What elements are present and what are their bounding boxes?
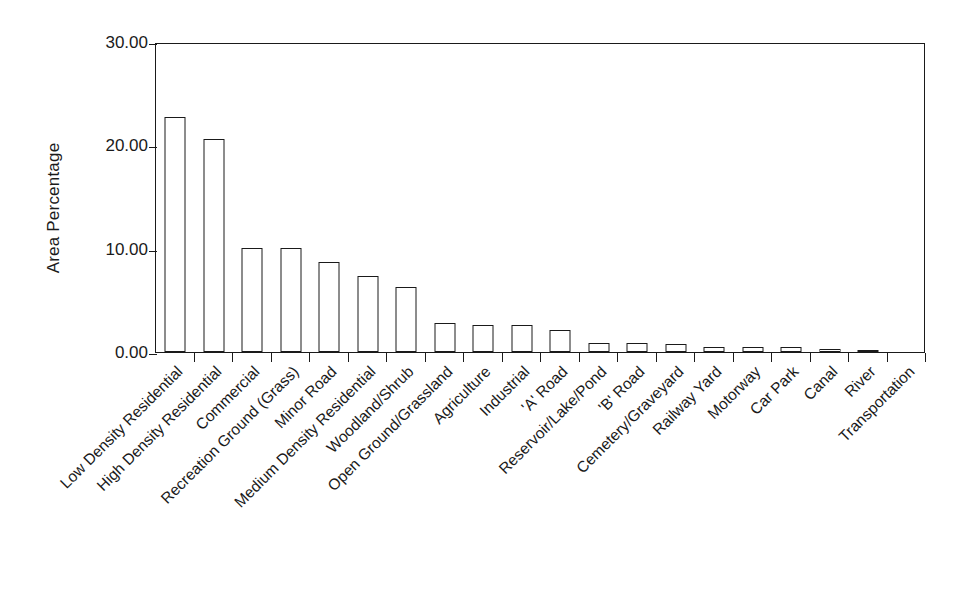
x-axis-tick-mark xyxy=(271,353,272,362)
y-axis-tick-mark xyxy=(149,147,157,148)
bar[interactable] xyxy=(665,344,686,352)
bar[interactable] xyxy=(242,248,263,352)
x-axis-tick-mark xyxy=(386,353,387,362)
bar-slot xyxy=(772,44,811,352)
bar-slot xyxy=(233,44,272,352)
bar-slot xyxy=(657,44,696,352)
bar-slot xyxy=(695,44,734,352)
bar[interactable] xyxy=(473,325,494,352)
bar-slot xyxy=(195,44,234,352)
bar[interactable] xyxy=(704,347,725,352)
x-axis-tick-mark xyxy=(463,353,464,362)
x-axis-tick-label: Canal xyxy=(800,363,840,403)
bar-slot xyxy=(349,44,388,352)
bar-slot xyxy=(541,44,580,352)
bar-slot xyxy=(310,44,349,352)
x-axis-tick-mark xyxy=(579,353,580,362)
bar-series xyxy=(156,44,924,352)
y-axis-tick-mark xyxy=(149,44,157,45)
x-axis-tick-mark xyxy=(309,353,310,362)
y-axis-tick-label: 10.00 xyxy=(76,241,148,258)
bar-slot xyxy=(734,44,773,352)
y-axis-tick-label: 0.00 xyxy=(76,344,148,361)
plot-area xyxy=(155,43,925,353)
bar[interactable] xyxy=(511,325,532,352)
bar-slot xyxy=(464,44,503,352)
bar[interactable] xyxy=(858,350,879,352)
y-axis-title: Area Percentage xyxy=(44,108,64,308)
bar[interactable] xyxy=(434,323,455,352)
bar[interactable] xyxy=(165,117,186,352)
x-axis-tick-mark xyxy=(887,353,888,362)
x-axis-tick-mark xyxy=(925,353,926,362)
bar-slot xyxy=(503,44,542,352)
bar[interactable] xyxy=(819,349,840,352)
bar[interactable] xyxy=(319,262,340,352)
x-axis-tick-mark xyxy=(694,353,695,362)
bar[interactable] xyxy=(742,347,763,352)
bar-slot xyxy=(272,44,311,352)
bar[interactable] xyxy=(280,248,301,352)
bar-slot xyxy=(426,44,465,352)
bar[interactable] xyxy=(781,347,802,352)
bar-slot xyxy=(618,44,657,352)
x-axis-tick-mark xyxy=(425,353,426,362)
y-axis-tick-mark xyxy=(149,251,157,252)
bar[interactable] xyxy=(550,330,571,352)
y-axis-tick-labels: 0.0010.0020.0030.00 xyxy=(74,0,148,600)
bar-slot xyxy=(888,44,927,352)
bar[interactable] xyxy=(396,287,417,352)
y-axis-tick-label: 20.00 xyxy=(76,137,148,154)
bar-slot xyxy=(811,44,850,352)
y-axis-tick-mark xyxy=(149,354,157,355)
bar[interactable] xyxy=(627,343,648,352)
x-axis-tick-mark xyxy=(810,353,811,362)
x-axis-tick-mark xyxy=(540,353,541,362)
x-axis-tick-mark xyxy=(502,353,503,362)
bar-chart-figure: Area Percentage 0.0010.0020.0030.00 Low … xyxy=(0,0,961,600)
x-axis-tick-mark xyxy=(733,353,734,362)
bar-slot xyxy=(156,44,195,352)
bar[interactable] xyxy=(203,139,224,352)
x-axis-tick-mark xyxy=(617,353,618,362)
x-axis-tick-mark xyxy=(848,353,849,362)
x-axis-tick-mark xyxy=(194,353,195,362)
bar-slot xyxy=(849,44,888,352)
y-axis-tick-label: 30.00 xyxy=(76,34,148,51)
x-axis-tick-mark xyxy=(771,353,772,362)
x-axis-tick-mark xyxy=(348,353,349,362)
bar[interactable] xyxy=(588,343,609,352)
bar[interactable] xyxy=(357,276,378,352)
bar-slot xyxy=(580,44,619,352)
bar-slot xyxy=(387,44,426,352)
x-axis-tick-mark xyxy=(232,353,233,362)
x-axis-tick-mark xyxy=(656,353,657,362)
